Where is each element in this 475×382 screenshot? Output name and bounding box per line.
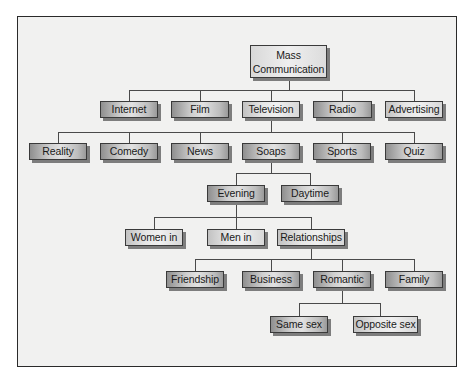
connector	[154, 217, 155, 229]
connector	[58, 132, 59, 143]
connector	[129, 132, 130, 143]
connector	[342, 259, 343, 271]
node-opposite-sex: Opposite sex	[353, 316, 418, 333]
connector	[342, 288, 343, 303]
connector	[129, 90, 415, 91]
connector	[414, 132, 415, 143]
connector	[58, 132, 415, 133]
node-evening: Evening	[207, 185, 265, 202]
connector	[310, 173, 311, 185]
connector	[271, 90, 272, 101]
node-family: Family	[385, 271, 443, 288]
node-daytime: Daytime	[281, 185, 339, 202]
node-label: Communication	[251, 62, 326, 76]
node-mass-communication: Mass Communication	[250, 45, 327, 78]
node-radio: Radio	[313, 101, 372, 118]
connector	[271, 118, 272, 132]
node-film: Film	[171, 101, 229, 118]
connector	[299, 303, 300, 316]
node-television: Television	[242, 101, 300, 118]
node-reality: Reality	[29, 143, 87, 160]
connector	[380, 303, 381, 316]
connector	[271, 259, 272, 271]
node-relationships: Relationships	[277, 229, 345, 246]
connector	[154, 217, 312, 218]
node-men-in: Men in	[207, 229, 265, 246]
connector	[236, 173, 311, 174]
connector	[414, 259, 415, 271]
node-same-sex: Same sex	[270, 316, 328, 333]
connector	[311, 246, 312, 259]
node-news: News	[171, 143, 229, 160]
connector	[414, 90, 415, 101]
connector	[299, 303, 381, 304]
connector	[195, 259, 415, 260]
node-friendship: Friendship	[166, 271, 224, 288]
connector	[236, 173, 237, 185]
node-sports: Sports	[313, 143, 371, 160]
node-quiz: Quiz	[385, 143, 443, 160]
connector	[195, 259, 196, 271]
connector	[200, 90, 201, 101]
node-soaps: Soaps	[242, 143, 300, 160]
node-women-in: Women in	[125, 229, 183, 246]
node-comedy: Comedy	[100, 143, 158, 160]
connector	[236, 202, 237, 217]
node-label: Mass	[251, 48, 326, 62]
connector	[271, 160, 272, 173]
connector	[289, 77, 290, 90]
connector	[129, 90, 130, 101]
connector	[342, 132, 343, 143]
node-internet: Internet	[100, 101, 158, 118]
connector	[342, 90, 343, 101]
connector	[311, 217, 312, 229]
node-business: Business	[242, 271, 300, 288]
node-romantic: Romantic	[313, 271, 371, 288]
connector	[200, 132, 201, 143]
node-advertising: Advertising	[385, 101, 443, 118]
connector	[236, 217, 237, 229]
